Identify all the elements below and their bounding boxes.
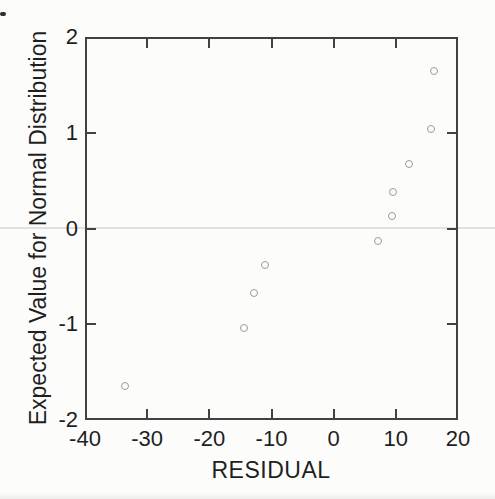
normal-probability-plot-figure: Expected Value for Normal Distribution R…	[0, 0, 495, 499]
data-point-marker	[427, 125, 435, 133]
x-tick-mark-bottom	[333, 409, 335, 420]
x-axis-title: RESIDUAL	[211, 457, 330, 484]
y-tick-label: -2	[30, 407, 78, 433]
x-tick-label: -20	[193, 427, 225, 451]
x-tick-label: -10	[256, 427, 288, 451]
x-tick-mark-bottom	[271, 409, 273, 420]
x-tick-mark-top	[146, 37, 148, 48]
y-tick-mark-right	[447, 323, 458, 325]
y-tick-mark-right	[447, 132, 458, 134]
y-tick-mark-left	[85, 323, 96, 325]
x-tick-mark-bottom	[395, 409, 397, 420]
data-point-marker	[374, 237, 382, 245]
x-tick-label: -30	[131, 427, 163, 451]
x-tick-label: 10	[384, 427, 408, 451]
y-tick-label: 0	[30, 216, 78, 242]
y-tick-label: 2	[30, 24, 78, 50]
data-point-marker	[240, 324, 248, 332]
y-tick-mark-left	[85, 228, 96, 230]
y-tick-label: 1	[30, 120, 78, 146]
data-point-marker	[405, 160, 413, 168]
y-tick-mark-right	[447, 228, 458, 230]
x-tick-mark-top	[395, 37, 397, 48]
y-tick-label: -1	[30, 311, 78, 337]
x-tick-mark-bottom	[208, 409, 210, 420]
x-tick-mark-top	[208, 37, 210, 48]
data-point-marker	[389, 188, 397, 196]
x-tick-mark-top	[271, 37, 273, 48]
y-tick-mark-left	[85, 132, 96, 134]
x-tick-label: 20	[446, 427, 470, 451]
plot-frame	[85, 37, 458, 420]
scan-artifact-speck	[0, 12, 6, 16]
data-point-marker	[121, 382, 129, 390]
x-tick-mark-bottom	[146, 409, 148, 420]
plot-area	[85, 37, 458, 420]
scan-artifact-shade	[0, 492, 495, 499]
x-tick-mark-top	[333, 37, 335, 48]
x-tick-label: 0	[328, 427, 340, 451]
